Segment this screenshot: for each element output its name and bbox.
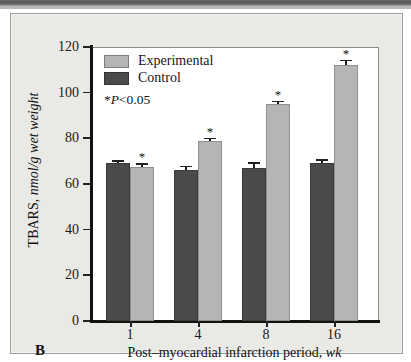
bar-experimental-4wk — [198, 141, 222, 321]
y-tick-120 — [83, 46, 90, 48]
y-tick-label-100: 100 — [45, 86, 79, 100]
y-tick-100 — [83, 92, 90, 94]
y-axis-title-main: TBARS, — [26, 195, 41, 247]
x-tick-label-16: 16 — [314, 328, 354, 342]
y-tick-80 — [83, 137, 90, 139]
x-tick-label-1: 1 — [110, 328, 150, 342]
x-tick-label-4: 4 — [178, 328, 218, 342]
y-axis-title-units: nmol/g wet weight — [26, 93, 41, 196]
significance-marker-experimental-16wk: * — [339, 47, 353, 60]
bar-control-1wk — [106, 163, 130, 321]
y-tick-60 — [83, 183, 90, 185]
y-tick-0 — [83, 320, 90, 322]
pvalue-threshold: <0.05 — [119, 92, 150, 107]
y-tick-label-80: 80 — [45, 131, 79, 145]
pvalue-note: *P<0.05 — [104, 92, 213, 108]
y-tick-label-0: 0 — [45, 314, 79, 328]
y-tick-40 — [83, 229, 90, 231]
y-tick-label-60: 60 — [45, 177, 79, 191]
legend-item-experimental: Experimental — [104, 54, 213, 68]
significance-marker-experimental-1wk: * — [135, 150, 149, 163]
chart-panel: 020406080100120 14816 **** TBARS, nmol/g… — [10, 13, 403, 354]
scan-artifact-band — [0, 0, 411, 7]
error-cap-control-4wk — [180, 166, 192, 168]
error-cap-control-16wk — [316, 159, 328, 161]
legend-label-experimental: Experimental — [138, 54, 213, 68]
legend: Experimental Control *P<0.05 — [104, 54, 213, 108]
y-axis-title: TBARS, nmol/g wet weight — [26, 55, 42, 285]
y-tick-20 — [83, 274, 90, 276]
x-axis-title-units: wk — [326, 345, 342, 360]
y-tick-label-120: 120 — [45, 40, 79, 54]
panel-letter-label: B — [35, 342, 45, 359]
x-tick-label-8: 8 — [246, 328, 286, 342]
bar-control-4wk — [174, 170, 198, 321]
scan-artifact-edge — [0, 7, 411, 9]
x-axis-title: Post–myocardial infarction period, wk — [91, 345, 378, 361]
figure-root: 020406080100120 14816 **** TBARS, nmol/g… — [0, 0, 411, 362]
significance-marker-experimental-4wk: * — [203, 125, 217, 138]
x-axis-title-main: Post–myocardial infarction period, — [128, 345, 326, 360]
pvalue-symbol: P — [111, 92, 119, 107]
y-axis-tick-labels: 020406080100120 — [39, 14, 79, 353]
error-cap-control-1wk — [112, 160, 124, 162]
legend-swatch-experimental-icon — [104, 55, 129, 68]
legend-label-control: Control — [138, 71, 181, 85]
significance-marker-experimental-8wk: * — [271, 88, 285, 101]
legend-swatch-control-icon — [104, 72, 129, 85]
bar-control-16wk — [310, 163, 334, 321]
bar-experimental-8wk — [266, 104, 290, 321]
y-tick-label-40: 40 — [45, 223, 79, 237]
bar-control-8wk — [242, 168, 266, 321]
y-tick-label-20: 20 — [45, 268, 79, 282]
bar-experimental-1wk — [130, 167, 154, 321]
bar-experimental-16wk — [334, 65, 358, 321]
error-cap-control-8wk — [248, 162, 260, 164]
pvalue-asterisk: * — [104, 92, 111, 107]
legend-item-control: Control — [104, 71, 213, 85]
